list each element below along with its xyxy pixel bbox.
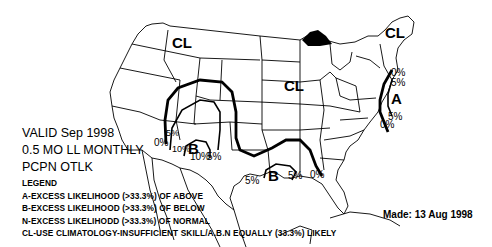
label-cl-central: CL <box>284 77 304 94</box>
label-a-east: A <box>391 90 402 107</box>
product-type: PCPN OTLK <box>22 159 144 176</box>
label-cl-northwest: CL <box>172 34 192 51</box>
legend: LEGEND A-EXCESS LIKELIHOOD (>33.3%) OF A… <box>22 177 336 240</box>
pct-sw-0: 0% <box>154 137 169 148</box>
product-name: 0.5 MO LL MONTHLY <box>22 142 144 159</box>
pct-sw-10a: 10% <box>172 144 190 154</box>
made-date: Made: 13 Aug 1998 <box>383 209 473 220</box>
pct-sw-5b: 5% <box>207 151 222 162</box>
legend-item-below: B-EXCESS LIKELIHOOD (>33.3%) OF BELOW <box>22 202 336 215</box>
title-block: VALID Sep 1998 0.5 MO LL MONTHLY PCPN OT… <box>22 125 144 176</box>
valid-date: VALID Sep 1998 <box>22 125 144 142</box>
legend-item-above: A-EXCESS LIKELIHOOD (>33.3%) OF ABOVE <box>22 190 336 203</box>
legend-item-climatology: CL-USE CLIMATOLOGY-INSUFFICIENT SKILL/A.… <box>22 227 336 240</box>
outer-contour <box>165 80 322 176</box>
contour-lines <box>165 70 392 180</box>
legend-heading: LEGEND <box>22 177 336 190</box>
legend-item-normal: N-EXCESS LIKELIHODD (>33.3%) OF NORMAL <box>22 215 336 228</box>
lake-superior <box>302 30 332 46</box>
pct-ne-5: 5% <box>391 77 406 88</box>
label-cl-northeast: CL <box>385 24 405 41</box>
pct-se-0: 0% <box>380 119 395 130</box>
